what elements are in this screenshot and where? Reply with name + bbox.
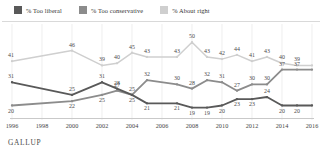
source-label: GALLUP [8, 138, 41, 147]
legend-label-too-liberal: % Too liberal [26, 7, 62, 14]
data-label: 31 [99, 73, 105, 79]
x-axis-tick-labels: 1996199820002002200420062008201020122014… [0, 122, 322, 134]
data-label: 25 [69, 86, 75, 92]
data-label: 46 [69, 42, 75, 48]
legend-label-too-conservative: % Too conservative [91, 7, 143, 14]
x-tick-2012: 2012 [246, 122, 259, 129]
data-label: 22 [69, 103, 75, 109]
data-label: 32 [204, 71, 210, 77]
data-label: 27 [234, 82, 240, 88]
data-label: 28 [189, 80, 195, 86]
data-label: 31 [219, 73, 225, 79]
x-tick-2016: 2016 [306, 122, 319, 129]
x-tick-2008: 2008 [186, 122, 199, 129]
data-label: 19 [204, 110, 210, 116]
data-label: 20 [294, 108, 300, 114]
data-label: 23 [249, 101, 255, 107]
data-label: 25 [129, 86, 135, 92]
data-label: 19 [189, 110, 195, 116]
data-label: 25 [99, 97, 105, 103]
plot-area: 4146394045434350434244414340392022252725… [0, 24, 322, 120]
chart-legend: % Too liberal % Too conservative % About… [0, 2, 322, 18]
data-label: 20 [219, 108, 225, 114]
data-label: 32 [144, 71, 150, 77]
data-label: 43 [144, 48, 150, 54]
legend-swatch-too-conservative [79, 6, 87, 14]
legend-swatch-too-liberal [14, 6, 22, 14]
data-label: 50 [189, 33, 195, 39]
x-axis-line [10, 118, 314, 119]
data-label: 30 [174, 75, 180, 81]
data-label: 45 [129, 44, 135, 50]
data-label: 21 [144, 105, 150, 111]
data-label: 40 [114, 54, 120, 60]
legend-divider [2, 21, 320, 22]
data-label: 43 [204, 48, 210, 54]
data-label: 31 [8, 73, 14, 79]
data-label: 37 [294, 61, 300, 67]
data-label: 43 [174, 48, 180, 54]
data-label: 41 [249, 52, 255, 58]
x-tick-2014: 2014 [276, 122, 289, 129]
data-label: 30 [249, 75, 255, 81]
data-label: 20 [279, 108, 285, 114]
x-tick-2006: 2006 [156, 122, 169, 129]
data-label: 40 [279, 54, 285, 60]
x-tick-1996: 1996 [6, 122, 19, 129]
x-tick-2010: 2010 [216, 122, 229, 129]
data-label: 37 [279, 61, 285, 67]
x-tick-2002: 2002 [96, 122, 109, 129]
data-label: 28 [114, 80, 120, 86]
chart-root: % Too liberal % Too conservative % About… [0, 0, 322, 158]
data-label: 39 [99, 56, 105, 62]
data-label: 20 [8, 108, 14, 114]
x-tick-2004: 2004 [126, 122, 139, 129]
line-chart-svg: 4146394045434350434244414340392022252725… [0, 24, 322, 120]
legend-label-about-right: % About right [172, 7, 210, 14]
data-label: 42 [219, 50, 225, 56]
data-label: 21 [174, 105, 180, 111]
data-label: 41 [8, 52, 14, 58]
data-label: 43 [264, 48, 270, 54]
data-label: 25 [129, 97, 135, 103]
legend-item-about-right[interactable]: % About right [160, 6, 210, 14]
data-label: 23 [234, 101, 240, 107]
data-label: 24 [264, 88, 270, 94]
x-tick-1998: 1998 [36, 122, 49, 129]
data-label: 30 [264, 75, 270, 81]
legend-swatch-about-right [160, 6, 168, 14]
x-tick-2000: 2000 [66, 122, 79, 129]
x-axis: 1996199820002002200420062008201020122014… [0, 118, 322, 134]
legend-item-too-conservative[interactable]: % Too conservative [79, 6, 143, 14]
legend-item-too-liberal[interactable]: % Too liberal [14, 6, 62, 14]
data-label: 44 [234, 46, 240, 52]
